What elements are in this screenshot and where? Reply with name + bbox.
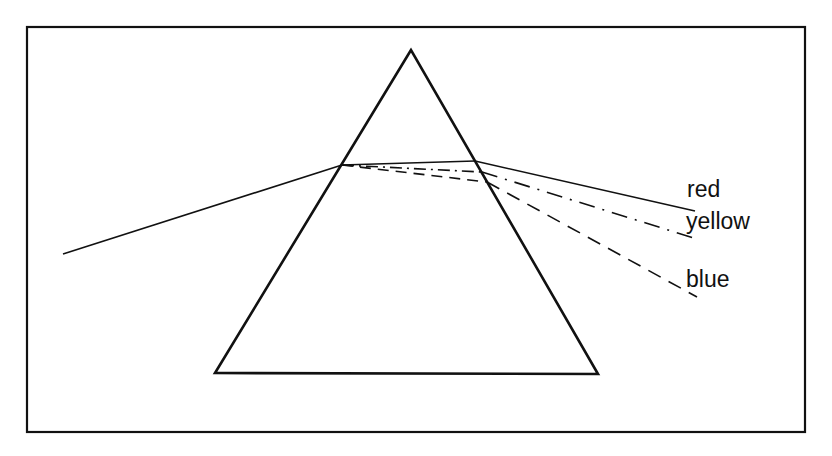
yellow-ray-internal	[342, 165, 482, 172]
blue-ray-internal	[342, 165, 487, 182]
yellow-label: yellow	[686, 208, 750, 234]
red-label: red	[687, 176, 720, 202]
blue-ray	[487, 182, 697, 297]
prism-triangle	[215, 50, 598, 374]
blue-label: blue	[686, 266, 729, 292]
incident-ray	[63, 165, 342, 254]
prism-dispersion-diagram: red yellow blue	[0, 0, 832, 456]
red-ray-internal	[342, 161, 475, 165]
